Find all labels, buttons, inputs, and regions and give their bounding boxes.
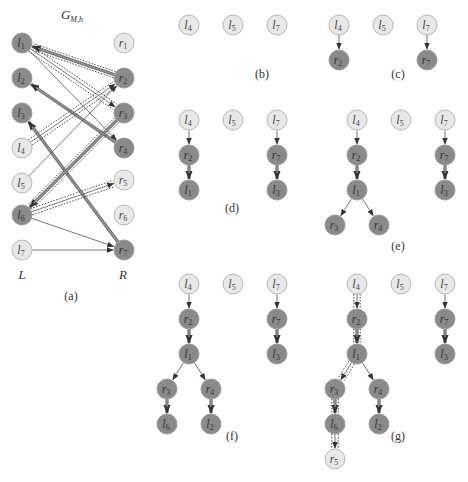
panel-caption: (c) bbox=[391, 67, 404, 81]
node-l2: l2 bbox=[12, 68, 32, 88]
panel-a-caption: (a) bbox=[64, 289, 77, 303]
node-l3: l3 bbox=[267, 344, 287, 364]
edge-l6-r7 bbox=[31, 218, 113, 246]
node-l4: l4 bbox=[179, 15, 199, 35]
node-l3: l3 bbox=[435, 344, 455, 364]
edge-l6-r5 bbox=[30, 181, 114, 215]
panel-nodes: l4l5l7r2r7l1l3r3r4l6l2 bbox=[157, 274, 287, 434]
node-l4: l4 bbox=[347, 110, 367, 130]
node-l1: l1 bbox=[179, 180, 199, 200]
node-l4: l4 bbox=[329, 15, 349, 35]
node-l7: l7 bbox=[267, 15, 287, 35]
node-l7: l7 bbox=[12, 240, 32, 260]
panel-a-title: GM,h bbox=[61, 7, 83, 24]
edge-l1-r3 bbox=[341, 198, 352, 215]
panel-nodes: l4l5l7r2r7l1l3 bbox=[179, 110, 287, 200]
panel-a-nodes: l1l2l3l4l5l6l7r1r2r3r4r5r6r7 bbox=[12, 33, 134, 260]
node-l7: l7 bbox=[267, 110, 287, 130]
edge-r2-l1 bbox=[31, 44, 115, 78]
edge-l4-r2 bbox=[354, 294, 360, 308]
node-r2: r2 bbox=[179, 309, 199, 329]
node-l6: l6 bbox=[157, 414, 177, 434]
panel-caption: (b) bbox=[255, 67, 269, 81]
node-l5: l5 bbox=[223, 274, 243, 294]
node-l1: l1 bbox=[347, 180, 367, 200]
node-r1: r1 bbox=[114, 33, 134, 53]
node-l2: l2 bbox=[369, 414, 389, 434]
panel-caption: (d) bbox=[225, 201, 239, 215]
node-r7: r7 bbox=[417, 50, 437, 70]
panel-nodes: l4l5l7r2r7 bbox=[329, 15, 437, 70]
panel-d: l4l5l7r2r7l1l3(d) bbox=[179, 110, 287, 215]
node-r4: r4 bbox=[369, 215, 389, 235]
node-l3: l3 bbox=[267, 180, 287, 200]
node-r5: r5 bbox=[325, 449, 345, 469]
unmatched-edge-line bbox=[31, 218, 113, 246]
edge-r2-l1 bbox=[354, 329, 360, 343]
edge-l1-r3 bbox=[28, 46, 116, 109]
edge-r7-l3 bbox=[29, 122, 118, 242]
node-l7: l7 bbox=[267, 274, 287, 294]
panel-a-bipartite-graph: l1l2l3l4l5l6l7r1r2r3r4r5r6r7 GM,h L R (a… bbox=[12, 7, 134, 303]
figure-canvas: l1l2l3l4l5l6l7r1r2r3r4r5r6r7 GM,h L R (a… bbox=[0, 0, 468, 482]
node-r5: r5 bbox=[114, 170, 134, 190]
node-l5: l5 bbox=[373, 15, 393, 35]
node-l5: l5 bbox=[391, 110, 411, 130]
panel-caption: (g) bbox=[391, 429, 405, 443]
node-l7: l7 bbox=[435, 274, 455, 294]
node-l5: l5 bbox=[12, 173, 32, 193]
node-l4: l4 bbox=[179, 110, 199, 130]
node-r2: r2 bbox=[329, 50, 349, 70]
panel-g: l4l5l7r2r7l1l3r3r4l6l2r5(g) bbox=[325, 274, 455, 469]
node-r7: r7 bbox=[435, 309, 455, 329]
panel-nodes: l4l5l7r2r7l1l3r3r4l6l2r5 bbox=[325, 274, 455, 469]
panel-c: l4l5l7r2r7(c) bbox=[329, 15, 437, 81]
node-l4: l4 bbox=[12, 138, 32, 158]
node-l2: l2 bbox=[201, 414, 221, 434]
node-l6: l6 bbox=[325, 414, 345, 434]
unmatched-edge-line bbox=[31, 184, 113, 212]
node-r2: r2 bbox=[347, 309, 367, 329]
node-l6: l6 bbox=[12, 205, 32, 225]
panel-edges bbox=[189, 130, 277, 179]
node-l1: l1 bbox=[12, 33, 32, 53]
edge-l1-r3 bbox=[173, 362, 184, 379]
edge-l1-r4 bbox=[194, 362, 205, 379]
unmatched-edge-line bbox=[173, 362, 184, 379]
node-r4: r4 bbox=[201, 379, 221, 399]
unmatched-edge-line bbox=[194, 362, 205, 379]
node-l1: l1 bbox=[347, 344, 367, 364]
node-r3: r3 bbox=[157, 379, 177, 399]
node-r3: r3 bbox=[325, 215, 345, 235]
panel-f: l4l5l7r2r7l1l3r3r4l6l2(f) bbox=[157, 274, 287, 443]
node-l3: l3 bbox=[12, 103, 32, 123]
node-r7: r7 bbox=[267, 309, 287, 329]
node-l4: l4 bbox=[347, 274, 367, 294]
node-l3: l3 bbox=[435, 180, 455, 200]
node-r2: r2 bbox=[114, 68, 134, 88]
node-l4: l4 bbox=[179, 274, 199, 294]
panel-e: l4l5l7r2r7l1l3r3r4(e) bbox=[325, 110, 455, 253]
panel-edges bbox=[339, 35, 427, 49]
left-set-label: L bbox=[17, 267, 25, 282]
panel-a-edges bbox=[28, 44, 120, 250]
edge-r3-l6 bbox=[332, 399, 338, 413]
node-r7: r7 bbox=[114, 240, 134, 260]
edge-l1-r4 bbox=[362, 362, 373, 379]
edge-l6-r5 bbox=[332, 434, 338, 448]
panels-b-to-g: l4l5l7(b)l4l5l7r2r7(c)l4l5l7r2r7l1l3(d)l… bbox=[157, 15, 455, 469]
node-r4: r4 bbox=[369, 379, 389, 399]
unmatched-edge-line bbox=[341, 198, 352, 215]
node-l5: l5 bbox=[223, 110, 243, 130]
edge-l1-r3 bbox=[338, 361, 354, 382]
node-l5: l5 bbox=[223, 15, 243, 35]
edge-l1-r4 bbox=[362, 198, 373, 215]
node-r7: r7 bbox=[435, 145, 455, 165]
panel-caption: (f) bbox=[226, 429, 238, 443]
node-r3: r3 bbox=[114, 103, 134, 123]
unmatched-edge-line bbox=[362, 198, 373, 215]
matched-edge-highlight bbox=[32, 127, 118, 242]
panel-nodes: l4l5l7r2r7l1l3r3r4 bbox=[325, 110, 455, 235]
node-r3: r3 bbox=[325, 379, 345, 399]
augmenting-path-dotted-line bbox=[32, 87, 117, 145]
